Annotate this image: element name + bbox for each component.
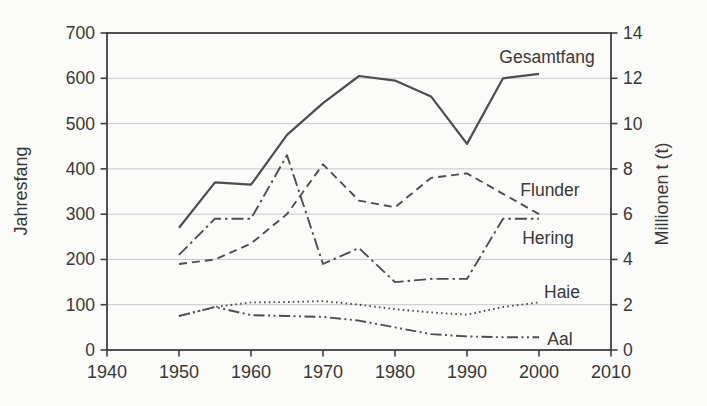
right-axis-tick-label: 10 [623, 114, 643, 134]
right-axis-tick-label: 0 [623, 340, 633, 360]
right-axis-title: Millionen t (t) [652, 142, 672, 245]
x-axis-tick-label: 1980 [375, 362, 415, 382]
x-axis-tick-label: 1940 [87, 362, 127, 382]
right-axis-tick-label: 2 [623, 295, 633, 315]
right-axis-tick-label: 6 [623, 204, 633, 224]
right-axis-tick-label: 8 [623, 159, 633, 179]
right-axis-tick-label: 14 [623, 23, 643, 43]
fish-catch-chart-figure: 0100200300400500600700024681012141940195… [0, 0, 707, 406]
series-line-haie [179, 301, 539, 316]
series-label-gesamtfang: Gesamtfang [499, 47, 594, 67]
right-axis-tick-label: 12 [623, 68, 642, 88]
left-axis-tick-label: 300 [66, 204, 95, 224]
left-axis-tick-label: 100 [66, 295, 95, 315]
left-axis-tick-label: 0 [85, 340, 95, 360]
left-axis-tick-label: 500 [66, 114, 95, 134]
x-axis-tick-label: 1960 [231, 362, 271, 382]
x-axis-tick-label: 2010 [591, 362, 631, 382]
left-axis-tick-label: 600 [66, 68, 95, 88]
scanned-book-figure-page: 0100200300400500600700024681012141940195… [0, 0, 707, 406]
fish-catch-line-chart: 0100200300400500600700024681012141940195… [0, 0, 707, 406]
left-axis-title: Jahresfang [11, 146, 31, 235]
series-line-hering [179, 155, 539, 282]
series-line-gesamtfang [179, 74, 539, 228]
series-label-flunder: Flunder [520, 180, 580, 200]
x-axis-tick-label: 1990 [447, 362, 487, 382]
series-label-haie: Haie [544, 282, 580, 302]
x-axis-tick-label: 1950 [159, 362, 199, 382]
left-axis-tick-label: 200 [66, 249, 95, 269]
left-axis-tick-label: 400 [66, 159, 95, 179]
right-axis-tick-label: 4 [623, 249, 633, 269]
left-axis-tick-label: 700 [66, 23, 95, 43]
x-axis-tick-label: 1970 [303, 362, 343, 382]
series-label-aal: Aal [547, 329, 572, 349]
series-label-hering: Hering [522, 228, 574, 248]
x-axis-tick-label: 2000 [519, 362, 559, 382]
